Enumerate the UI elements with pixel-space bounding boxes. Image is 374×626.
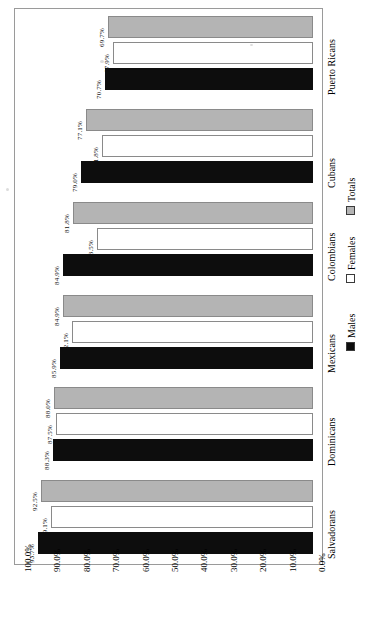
category-label-dominicans: Dominicans: [326, 418, 337, 466]
bar-colombians-males: [63, 254, 313, 276]
scan-artifact: [100, 60, 104, 63]
bar-value-label: 79.0%: [72, 173, 79, 192]
bar-dominicans-totals: [54, 387, 313, 409]
scan-artifact: [250, 44, 253, 46]
bar-cubans-males: [81, 161, 313, 183]
legend-label-totals: Totals: [346, 178, 357, 202]
bar-colombians-females: [97, 228, 313, 250]
bar-cubans-totals: [86, 109, 313, 131]
axis-tick-500: 50.0%: [170, 549, 180, 572]
bar-value-label: 88.3%: [44, 451, 51, 470]
category-label-mexicans: Mexicans: [326, 334, 337, 373]
bar-value-label: 81.8%: [64, 214, 71, 233]
axis-tick-300: 30.0%: [229, 549, 239, 572]
bar-puerto ricans-females: [113, 42, 313, 64]
axis-tick-400: 40.0%: [199, 549, 209, 572]
legend-label-females: Females: [346, 237, 357, 270]
bar-value-label: 69.7%: [99, 28, 106, 47]
bar-puerto ricans-males: [105, 68, 313, 90]
category-label-colombians: Colombians: [326, 232, 337, 280]
bar-value-label: 77.1%: [77, 121, 84, 140]
axis-tick-00: 0.0%: [317, 553, 327, 572]
bar-value-label: 70.7%: [96, 80, 103, 99]
bar-puerto ricans-totals: [108, 16, 313, 38]
axis-tick-200: 20.0%: [258, 549, 268, 572]
legend-swatch-females: [346, 274, 355, 283]
bar-cubans-females: [102, 135, 313, 157]
bar-value-label: 84.9%: [54, 306, 61, 325]
axis-tick-100: 10.0%: [288, 549, 298, 572]
bar-value-label: 92.5%: [32, 492, 39, 511]
legend-label-males: Males: [346, 314, 357, 338]
category-label-cubans: Cubans: [326, 158, 337, 188]
bar-colombians-totals: [73, 202, 313, 224]
axis-tick-900: 90.0%: [52, 549, 62, 572]
bar-dominicans-females: [56, 413, 313, 435]
bar-mexicans-females: [72, 321, 313, 343]
scan-artifact: [6, 188, 9, 191]
bar-dominicans-males: [53, 439, 313, 461]
bar-salvadorans-females: [51, 506, 313, 528]
axis-tick-600: 60.0%: [141, 549, 151, 572]
bar-value-label: 84.9%: [54, 266, 61, 285]
category-label-salvadorans: Salvadorans: [326, 510, 337, 559]
axis-tick-700: 70.0%: [111, 549, 121, 572]
axis-tick-1000: 100.0%: [23, 544, 33, 572]
bar-value-label: 85.9%: [51, 358, 58, 377]
bar-value-label: 88.0%: [45, 399, 52, 418]
category-label-puerto ricans: Puerto Ricans: [326, 39, 337, 95]
bar-mexicans-males: [60, 347, 313, 369]
legend-swatch-totals: [346, 206, 355, 215]
legend-swatch-males: [346, 342, 355, 351]
bar-salvadorans-totals: [41, 480, 313, 502]
axis-tick-800: 80.0%: [82, 549, 92, 572]
bar-mexicans-totals: [63, 295, 313, 317]
